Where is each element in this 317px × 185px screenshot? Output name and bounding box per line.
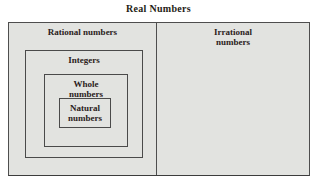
irrational-numbers-region: Irrational numbers [157, 23, 309, 175]
irrational-numbers-label-text: Irrational numbers [198, 27, 268, 47]
real-numbers-box: Rational numbers Integers Whole numbers … [8, 22, 310, 176]
rational-numbers-region: Rational numbers Integers Whole numbers … [9, 23, 157, 175]
whole-numbers-label: Whole numbers [45, 79, 127, 99]
whole-numbers-label-text: Whole numbers [61, 79, 111, 99]
integers-box: Integers Whole numbers Natural numbers [25, 50, 143, 158]
natural-numbers-label-text: Natural numbers [62, 103, 108, 123]
rational-numbers-label-text: Rational numbers [48, 27, 118, 37]
natural-numbers-label: Natural numbers [60, 103, 110, 123]
diagram-title: Real Numbers [0, 3, 317, 14]
whole-numbers-box: Whole numbers Natural numbers [44, 74, 128, 147]
integers-label-text: Integers [49, 55, 119, 65]
rational-numbers-label: Rational numbers [9, 27, 156, 37]
integers-label: Integers [26, 55, 142, 65]
irrational-numbers-label: Irrational numbers [157, 27, 309, 47]
natural-numbers-box: Natural numbers [59, 98, 111, 128]
